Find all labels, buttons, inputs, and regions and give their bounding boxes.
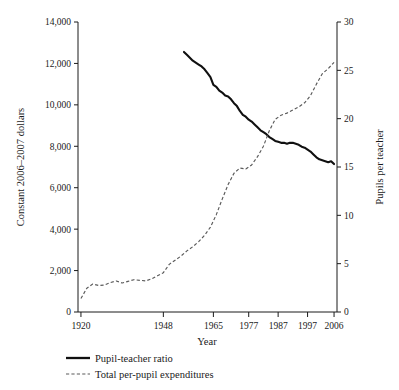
left-tick-label: 10,000 [45,100,71,110]
right-tick-label: 5 [344,259,349,269]
right-tick-label: 25 [344,66,354,76]
left-tick-label: 0 [66,307,71,317]
right-tick-label: 15 [344,162,354,172]
x-tick-label: 1997 [298,321,317,331]
left-axis-ticks: 02,0004,0006,0008,00010,00012,00014,000 [45,17,78,317]
x-tick-label: 1977 [239,321,258,331]
dual-axis-line-chart: 02,0004,0006,0008,00010,00012,00014,000 … [0,0,399,390]
plot-background [78,22,337,312]
legend-label-pupil-teacher-ratio: Pupil-teacher ratio [95,353,173,364]
right-tick-label: 20 [344,114,354,124]
x-tick-label: 1965 [204,321,223,331]
left-tick-label: 12,000 [45,59,71,69]
chart-container: 02,0004,0006,0008,00010,00012,00014,000 … [0,0,399,390]
left-tick-label: 2,000 [50,266,72,276]
right-tick-label: 30 [344,17,354,27]
x-axis-title: Year [197,336,217,347]
left-tick-label: 8,000 [50,142,72,152]
right-axis-title: Pupils per teacher [374,129,385,205]
left-tick-label: 14,000 [45,17,71,27]
left-axis-title: Constant 2006–2007 dollars [15,108,26,226]
legend-label-total-per-pupil-expenditures: Total per-pupil expenditures [95,369,214,380]
x-tick-label: 1948 [154,321,173,331]
x-axis-ticks: 1920194819651977198719972006 [71,312,343,331]
right-tick-label: 0 [344,307,349,317]
legend: Pupil-teacher ratio Total per-pupil expe… [66,353,214,380]
x-tick-label: 2006 [325,321,344,331]
left-tick-label: 4,000 [50,225,72,235]
x-tick-label: 1920 [71,321,90,331]
plot-frame [78,22,337,312]
x-tick-label: 1987 [269,321,288,331]
right-tick-label: 10 [344,211,354,221]
left-tick-label: 6,000 [50,183,72,193]
right-axis-ticks: 051015202530 [337,17,354,317]
